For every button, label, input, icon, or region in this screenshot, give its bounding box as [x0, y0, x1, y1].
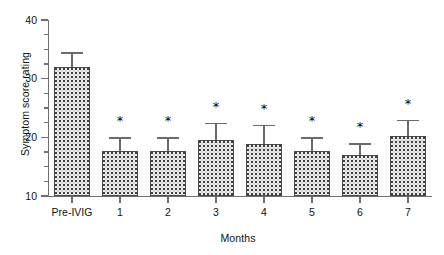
y-axis-line	[48, 20, 49, 197]
bar-chart-figure: Symptom score rating Months 10203040 Pre…	[0, 0, 444, 255]
error-bar-cap	[349, 143, 371, 144]
y-tick-minor	[44, 181, 49, 182]
significance-asterisk: *	[388, 100, 428, 108]
significance-asterisk: *	[340, 123, 380, 131]
bar	[198, 140, 234, 196]
significance-asterisk: *	[196, 103, 236, 111]
y-tick-minor	[44, 122, 49, 123]
x-tick	[407, 197, 408, 203]
error-bar-stem	[263, 125, 264, 144]
error-bar-stem	[311, 137, 312, 151]
x-tick	[215, 197, 216, 203]
error-bar-stem	[215, 123, 216, 141]
y-tick-minor	[44, 93, 49, 94]
x-tick	[311, 197, 312, 203]
x-axis-title: Months	[48, 232, 428, 244]
y-tick-minor	[44, 34, 49, 35]
error-bar-cap	[397, 120, 419, 121]
error-bar-cap	[205, 123, 227, 124]
x-tick	[263, 197, 264, 203]
significance-asterisk: *	[148, 117, 188, 125]
x-tick	[167, 197, 168, 203]
y-tick-minor	[44, 107, 49, 108]
y-tick-label: 10	[13, 190, 37, 202]
y-tick-minor	[44, 151, 49, 152]
error-bar-stem	[71, 52, 72, 67]
y-tick-label: 40	[13, 14, 37, 26]
x-tick-label: 7	[368, 206, 444, 218]
y-tick-label-wrap: 10	[12, 190, 37, 202]
y-tick-label: 30	[13, 72, 37, 84]
x-tick	[71, 197, 72, 203]
y-tick-label: 20	[13, 131, 37, 143]
error-bar-stem	[359, 143, 360, 155]
y-axis-title: Symptom score rating	[19, 9, 31, 199]
error-bar-stem	[119, 137, 120, 151]
error-bar-cap	[61, 52, 83, 53]
y-tick-major	[41, 78, 48, 79]
bar	[294, 151, 330, 196]
error-bar-cap	[109, 137, 131, 138]
bar	[150, 151, 186, 196]
y-tick-minor	[44, 49, 49, 50]
bar	[102, 151, 138, 196]
error-bar-stem	[167, 137, 168, 151]
error-bar-cap	[301, 137, 323, 138]
error-bar-cap	[157, 137, 179, 138]
error-bar-cap	[253, 125, 275, 126]
bar	[342, 155, 378, 196]
significance-asterisk: *	[100, 117, 140, 125]
y-tick-label-wrap: 40	[12, 14, 37, 26]
significance-asterisk: *	[292, 117, 332, 125]
y-tick-major	[41, 137, 48, 138]
y-tick-major	[41, 19, 48, 20]
y-tick-minor	[44, 63, 49, 64]
x-axis-line	[48, 196, 432, 197]
bar	[246, 144, 282, 196]
x-tick	[119, 197, 120, 203]
error-bar-stem	[407, 120, 408, 136]
y-tick-label-wrap: 20	[12, 131, 37, 143]
y-tick-label-wrap: 30	[12, 72, 37, 84]
y-tick-minor	[44, 166, 49, 167]
bar	[390, 136, 426, 196]
bar	[54, 67, 90, 196]
x-tick	[359, 197, 360, 203]
significance-asterisk: *	[244, 105, 284, 113]
y-tick-major	[41, 195, 48, 196]
